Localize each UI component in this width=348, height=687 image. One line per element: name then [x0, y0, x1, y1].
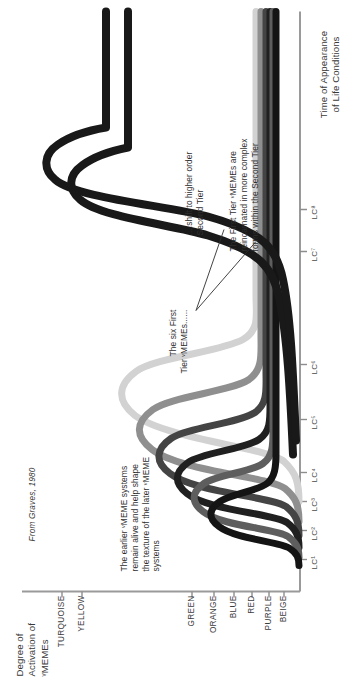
x-tick-lc1: LC¹	[310, 556, 320, 570]
x-axis-title: Time of Appearance of Life Conditions	[318, 9, 343, 139]
y-category-red: RED	[247, 595, 258, 647]
y-category-turquoise: TURQUOISE	[57, 595, 68, 647]
chart-figure: From Graves, 1980 Degree of Activation o…	[0, 0, 348, 687]
x-tick-lc6: LC⁶	[310, 360, 320, 374]
y-category-purple: PURPLE	[264, 595, 275, 647]
x-tick-lc5: LC⁵	[310, 415, 320, 429]
y-category-yellow: YELLOW	[77, 595, 88, 647]
annotation-six-first-tier: The six First Tier ᵛMEMEs......	[168, 309, 190, 399]
annotation-shift-second-tier: ....shift to higher order Second Tier	[184, 95, 206, 235]
y-category-beige: BEIGE	[279, 595, 290, 647]
annotation-reincarnated: The First Tier ᵛMEMEs are reincarnated i…	[228, 71, 260, 251]
plot-area: From Graves, 1980 Degree of Activation o…	[0, 0, 348, 687]
y-category-green: GREEN	[187, 595, 198, 647]
x-tick-lc3: LC³	[310, 498, 320, 512]
x-tick-lc8: LC⁸	[310, 205, 320, 219]
x-tick-lc4: LC⁴	[310, 468, 320, 482]
y-axis-title: Degree of Activation of ᵛMEMEs	[14, 556, 51, 676]
y-category-orange: ORANGE	[209, 595, 220, 647]
annotation-earlier-systems: The earlier ᵛMEME systems remain alive a…	[119, 396, 162, 571]
x-tick-lc2: LC²	[310, 527, 320, 541]
x-tick-lc7: LC⁷	[310, 247, 320, 261]
source-note: From Graves, 1980	[28, 467, 39, 541]
y-category-blue: BLUE	[229, 595, 240, 647]
